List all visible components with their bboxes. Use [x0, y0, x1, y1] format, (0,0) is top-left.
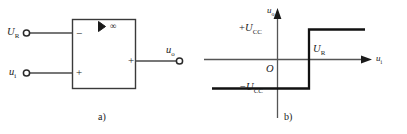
transfer-characteristic-plot	[204, 0, 407, 134]
opamp-output-terminal-sign: +	[128, 55, 134, 66]
x-axis-arrow-icon	[361, 56, 372, 64]
terminal-node-reference-input	[23, 30, 29, 36]
panel-circuit-diagram: ∞ − + + UR ui uo a)	[0, 0, 204, 134]
terminal-node-output	[176, 58, 182, 64]
y-tick-positive-sub: CC	[253, 28, 262, 35]
x-axis-label: ui	[376, 54, 382, 63]
label-output: uo	[166, 45, 175, 56]
amplifier-triangle-icon	[99, 22, 106, 32]
x-axis-label-main: u	[376, 53, 381, 63]
label-reference-input-main: U	[7, 26, 15, 37]
threshold-label: UR	[313, 44, 325, 55]
y-tick-positive-main: U	[245, 22, 253, 33]
label-output-sub: o	[171, 50, 174, 57]
caption-panel-b: b)	[284, 112, 293, 122]
terminal-node-signal-input	[23, 70, 29, 76]
y-axis-label-main: u	[267, 5, 272, 15]
label-reference-input: UR	[7, 27, 19, 38]
threshold-label-main: U	[313, 43, 321, 54]
opamp-noninverting-terminal-sign: +	[76, 67, 82, 78]
y-axis-label-sub: o	[272, 11, 275, 17]
y-tick-label-negative-ucc: −UCC	[240, 82, 263, 93]
panel-transfer-characteristic: uo ui +UCC −UCC O UR b)	[204, 0, 407, 134]
caption-panel-a: a)	[98, 112, 106, 122]
figure-container: ∞ − + + UR ui uo a)	[0, 0, 407, 134]
label-reference-input-sub: R	[15, 32, 20, 39]
threshold-label-sub: R	[321, 49, 326, 56]
y-tick-negative-main: U	[246, 81, 254, 92]
y-axis-label: uo	[267, 6, 275, 15]
y-tick-label-positive-ucc: +UCC	[239, 23, 262, 34]
label-signal-input: ui	[9, 67, 16, 78]
y-tick-negative-sub: CC	[254, 87, 263, 94]
label-signal-input-sub: i	[14, 72, 16, 79]
opamp-gain-infinity-label: ∞	[110, 22, 117, 31]
opamp-inverting-terminal-sign: −	[76, 28, 82, 39]
origin-label: O	[266, 64, 274, 75]
